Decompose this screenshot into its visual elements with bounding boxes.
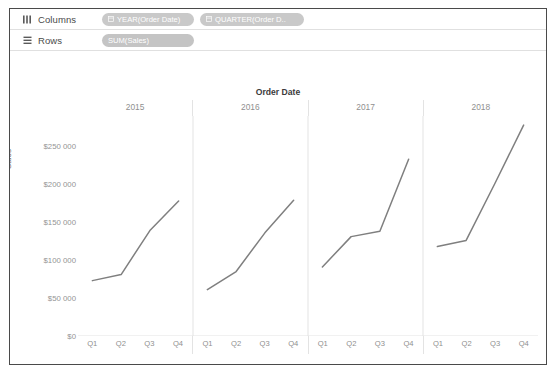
pill-year-order-date[interactable]: YEAR(Order Date) (102, 13, 194, 26)
series-line-2015[interactable] (92, 201, 178, 281)
series-line-2018[interactable] (437, 125, 523, 246)
y-tick-label: $200 000 (43, 180, 76, 189)
quarter-panel-2017: Q1 Q2 Q3 Q4 (308, 336, 423, 354)
quarter-panel-2016: Q1 Q2 Q3 Q4 (192, 336, 307, 354)
y-tick-label: $0 (67, 332, 76, 341)
y-axis-title: Sales (10, 149, 13, 169)
pill-label: YEAR(Order Date) (117, 13, 180, 26)
pill-label: QUARTER(Order D.. (215, 13, 286, 26)
y-tick-label: $100 000 (43, 256, 76, 265)
qtick-q1: Q1 (78, 336, 107, 354)
rows-pill-area: SUM(Sales) (102, 34, 194, 47)
qtick-q2: Q2 (337, 336, 366, 354)
calendar-icon (108, 13, 114, 26)
columns-grid-icon (20, 15, 34, 24)
chart-column-title: Order Date (10, 87, 546, 97)
line-chart-svg (78, 116, 538, 336)
qtick-q4: Q4 (394, 336, 423, 354)
qtick-q1: Q1 (309, 336, 338, 354)
series-line-2017[interactable] (322, 159, 408, 267)
worksheet-card: Columns YEAR(Order Date) (9, 8, 547, 365)
qtick-q3: Q3 (366, 336, 395, 354)
y-tick-label: $250 000 (43, 142, 76, 151)
y-tick-label: $50 000 (48, 294, 76, 303)
series-line-2016[interactable] (207, 200, 293, 290)
year-header-2018: 2018 (423, 100, 538, 116)
tableau-worksheet: Columns YEAR(Order Date) (0, 0, 557, 375)
columns-shelf-label: Columns (38, 14, 98, 25)
quarter-panel-2015: Q1 Q2 Q3 Q4 (78, 336, 192, 354)
qtick-q3: Q3 (481, 336, 510, 354)
qtick-q3: Q3 (250, 336, 279, 354)
columns-pill-area: YEAR(Order Date) QUARTER(Order D.. (102, 13, 304, 26)
rows-shelf[interactable]: Rows SUM(Sales) (10, 30, 546, 51)
chart-body: Order Date 2015 2016 2017 2018 Sales $25… (10, 51, 546, 364)
year-header-2017: 2017 (308, 100, 423, 116)
qtick-q4: Q4 (164, 336, 193, 354)
columns-shelf[interactable]: Columns YEAR(Order Date) (10, 9, 546, 30)
pill-sum-sales[interactable]: SUM(Sales) (102, 34, 194, 47)
qtick-q2: Q2 (222, 336, 251, 354)
y-tick-label: $150 000 (43, 218, 76, 227)
year-header-2015: 2015 (78, 100, 192, 116)
qtick-q4: Q4 (509, 336, 538, 354)
year-header-2016: 2016 (192, 100, 307, 116)
calendar-icon (206, 13, 212, 26)
qtick-q2: Q2 (107, 336, 136, 354)
qtick-q2: Q2 (452, 336, 481, 354)
quarter-panel-2018: Q1 Q2 Q3 Q4 (423, 336, 538, 354)
y-axis-tick-labels: $250 000$200 000$150 000$100 000$50 000$… (20, 116, 76, 336)
plot-area (78, 116, 538, 336)
quarter-axis-band: Q1 Q2 Q3 Q4 Q1 Q2 Q3 Q4 Q1 Q2 Q3 Q4 (78, 336, 538, 354)
pill-label: SUM(Sales) (108, 34, 149, 47)
qtick-q1: Q1 (424, 336, 453, 354)
qtick-q1: Q1 (193, 336, 222, 354)
qtick-q3: Q3 (135, 336, 164, 354)
rows-shelf-label: Rows (38, 35, 98, 46)
year-header-band: 2015 2016 2017 2018 (78, 100, 538, 116)
pill-quarter-order-date[interactable]: QUARTER(Order D.. (200, 13, 304, 26)
qtick-q4: Q4 (279, 336, 308, 354)
rows-list-icon (20, 36, 34, 45)
